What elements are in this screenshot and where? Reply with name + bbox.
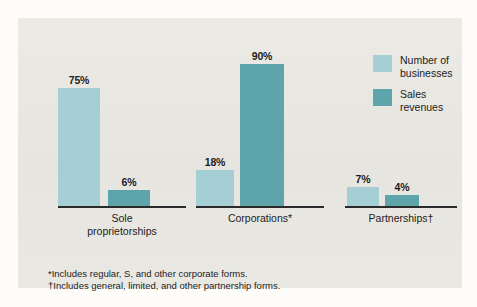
bar-sales-revenues-corporations[interactable] <box>240 64 284 206</box>
bar-number-of-businesses-corporations[interactable] <box>196 170 234 206</box>
legend-swatch-number-of-businesses-icon <box>373 55 392 72</box>
group-baseline <box>345 206 457 208</box>
chart-footnotes: *Includes regular, S, and other corporat… <box>48 268 280 292</box>
bar-value-number-of-businesses-corporations: 18% <box>196 156 234 168</box>
category-label-partnerships: Partnerships† <box>319 212 477 225</box>
chart-panel: 75% 6% Sole proprietorships 18% 90% Corp… <box>18 18 462 288</box>
bar-value-sales-revenues-corporations: 90% <box>240 50 284 62</box>
group-baseline <box>58 206 186 208</box>
bar-sales-revenues-sole-proprietorships[interactable] <box>108 190 150 206</box>
legend-item-sales-revenues[interactable]: Sales revenues <box>373 88 477 113</box>
legend-label-number-of-businesses: Number of businesses <box>400 54 453 79</box>
bar-number-of-businesses-sole-proprietorships[interactable] <box>58 88 100 206</box>
bar-value-sales-revenues-partnerships: 4% <box>385 181 419 193</box>
bar-value-number-of-businesses-sole-proprietorships: 75% <box>58 74 100 86</box>
footnote-partnerships: †Includes general, limited, and other pa… <box>48 280 280 292</box>
bar-sales-revenues-partnerships[interactable] <box>385 195 419 206</box>
legend-label-sales-revenues: Sales revenues <box>400 88 443 113</box>
group-baseline <box>196 206 324 208</box>
chart-figure: 75% 6% Sole proprietorships 18% 90% Corp… <box>0 0 477 307</box>
chart-legend: Number of businesses Sales revenues <box>373 54 477 122</box>
bar-value-sales-revenues-sole-proprietorships: 6% <box>108 176 150 188</box>
legend-item-number-of-businesses[interactable]: Number of businesses <box>373 54 477 79</box>
bar-number-of-businesses-partnerships[interactable] <box>347 187 379 206</box>
category-label-corporations: Corporations* <box>178 212 342 225</box>
bar-value-number-of-businesses-partnerships: 7% <box>347 173 379 185</box>
footnote-corporations: *Includes regular, S, and other corporat… <box>48 268 280 280</box>
legend-swatch-sales-revenues-icon <box>373 89 392 106</box>
